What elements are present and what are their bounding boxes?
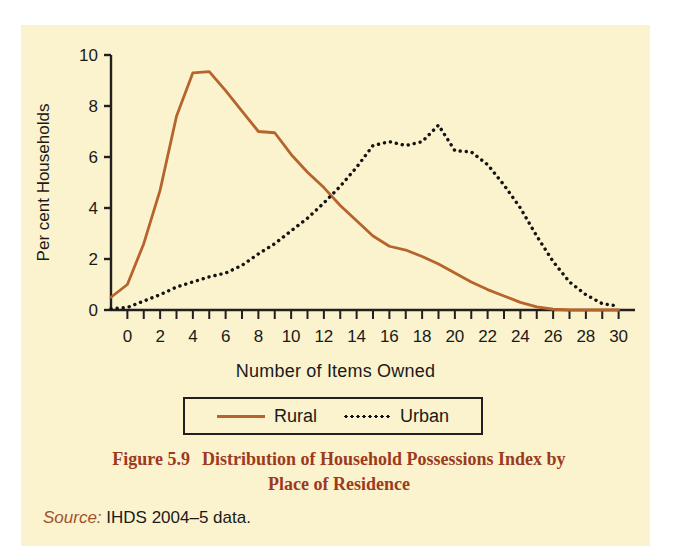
series-line-rural [111, 72, 619, 310]
x-tick-label: 24 [511, 327, 530, 346]
x-tick-label: 12 [314, 327, 333, 346]
chart-legend: Rural Urban [183, 397, 483, 435]
x-tick-label: 14 [347, 327, 366, 346]
y-tick-label: 0 [89, 301, 98, 320]
x-tick-label: 18 [413, 327, 432, 346]
x-tick-label: 2 [155, 327, 164, 346]
x-tick-label: 28 [576, 327, 595, 346]
y-tick-label: 10 [79, 46, 98, 65]
y-tick-label: 6 [89, 148, 98, 167]
x-tick-label: 10 [282, 327, 301, 346]
x-tick-label: 22 [478, 327, 497, 346]
y-axis: 0246810 [79, 46, 111, 320]
x-tick-label: 26 [544, 327, 563, 346]
source-note: Source: IHDS 2004–5 data. [43, 508, 251, 528]
y-tick-label: 4 [89, 199, 98, 218]
y-tick-label: 2 [89, 250, 98, 269]
x-axis-title: Number of Items Owned [21, 361, 650, 382]
legend-label-rural: Rural [274, 406, 317, 427]
legend-dotted-swatch-urban [343, 415, 391, 418]
figure-caption-line2: Place of Residence [268, 474, 410, 494]
legend-line-swatch-rural [217, 415, 265, 418]
legend-item-urban: Urban [343, 406, 449, 427]
legend-item-rural: Rural [217, 406, 317, 427]
data-series-group [111, 72, 619, 310]
figure-caption-line1: Distribution of Household Possessions In… [202, 449, 566, 469]
y-tick-label: 8 [89, 97, 98, 116]
x-tick-label: 8 [254, 327, 263, 346]
figure-container: 0246810 024681012141618202224262830 Per … [21, 25, 650, 546]
line-chart-svg: 0246810 024681012141618202224262830 Per … [21, 25, 650, 355]
x-tick-label: 16 [380, 327, 399, 346]
x-tick-label: 20 [445, 327, 464, 346]
x-tick-label: 30 [609, 327, 628, 346]
legend-label-urban: Urban [400, 406, 449, 427]
figure-number: Figure 5.9 [112, 449, 190, 469]
x-tick-label: 4 [188, 327, 197, 346]
source-value: IHDS 2004–5 data. [106, 508, 251, 527]
x-tick-label: 6 [221, 327, 230, 346]
y-axis-title: Per cent Households [34, 104, 53, 262]
x-tick-label: 0 [123, 327, 132, 346]
x-axis: 024681012141618202224262830 [111, 310, 635, 346]
series-line-urban [111, 125, 619, 309]
source-label: Source: [43, 508, 102, 527]
chart-plot-area: 0246810 024681012141618202224262830 Per … [21, 25, 650, 355]
figure-caption: Figure 5.9Distribution of Household Poss… [49, 447, 629, 497]
